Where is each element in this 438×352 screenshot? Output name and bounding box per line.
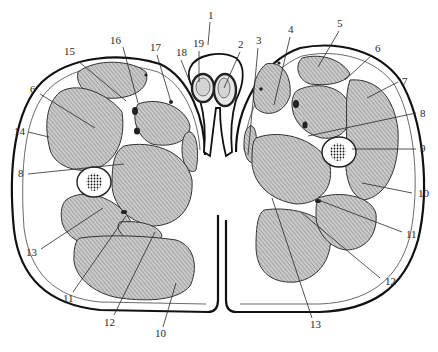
label-3: 3: [256, 34, 262, 46]
right-saphenous-vein: [259, 87, 263, 91]
label-11: 11: [406, 228, 417, 240]
scrotum: [189, 54, 243, 156]
label-13b: 13: [26, 246, 38, 258]
leader-line-14: [28, 132, 49, 137]
label-11b: 11: [63, 292, 74, 304]
label-2: 2: [238, 38, 244, 50]
label-13: 13: [310, 318, 322, 330]
right-small-vessel: [277, 61, 280, 64]
right-femur-marrow: [330, 143, 346, 161]
right-vastus-medialis: [292, 86, 350, 139]
label-7: 7: [402, 75, 408, 87]
label-9: 9: [420, 142, 426, 154]
label-18: 18: [176, 46, 188, 58]
leader-line-1: [208, 22, 210, 45]
label-10b: 10: [155, 327, 167, 339]
left-testis-parenchyma: [196, 78, 210, 96]
label-17: 17: [150, 41, 162, 53]
label-14: 14: [14, 125, 26, 137]
left-sciatic-nerve: [121, 210, 127, 214]
label-15: 15: [64, 45, 76, 57]
label-1: 1: [208, 9, 214, 21]
label-5: 5: [337, 17, 343, 29]
right-femoral-vein: [303, 122, 308, 129]
left-vastus-lateralis: [47, 88, 123, 170]
label-16: 16: [110, 34, 122, 46]
left-adductor-longus: [135, 101, 190, 145]
thigh-cross-section-diagram: 123456789101112131415161718196813111210: [0, 0, 438, 352]
right-thigh: [226, 46, 424, 312]
right-sciatic-nerve: [315, 199, 321, 203]
label-8b: 8: [18, 167, 24, 179]
label-6: 6: [375, 42, 381, 54]
left-femoral-vein: [134, 128, 140, 135]
right-adductor-longus: [253, 63, 290, 113]
label-19: 19: [193, 37, 205, 49]
right-sartorius: [298, 56, 350, 84]
label-12: 12: [385, 275, 396, 287]
label-12b: 12: [104, 316, 115, 328]
left-semimembranosus: [74, 236, 195, 300]
label-6b: 6: [30, 83, 36, 95]
left-femur-marrow: [86, 173, 102, 191]
label-8: 8: [420, 107, 426, 119]
leader-line-18: [181, 60, 189, 80]
right-vastus-lateralis: [346, 80, 399, 200]
label-4: 4: [288, 23, 294, 35]
left-small-vessel: [144, 73, 147, 76]
label-10: 10: [418, 187, 430, 199]
right-femoral-artery: [293, 100, 299, 108]
right-adductor-magnus: [252, 134, 331, 204]
scrotum-outline: [189, 54, 243, 156]
left-femoral-artery: [132, 107, 138, 115]
